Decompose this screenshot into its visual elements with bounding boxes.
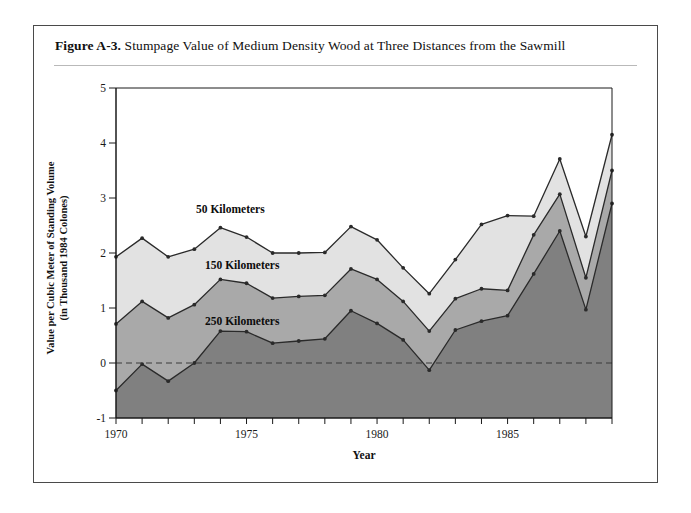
series-label-50km: 50 Kilometers	[196, 203, 265, 215]
y-tick-label-0: 0	[84, 357, 106, 369]
y-tick-label-neg1: -1	[84, 412, 106, 424]
y-axis-title: Value per Cubic Meter of Standing Volume…	[44, 143, 70, 373]
figure-title: Stumpage Value of Medium Density Wood at…	[125, 38, 566, 53]
y-tick-label-1: 1	[84, 302, 106, 314]
y-tick-label-3: 3	[84, 192, 106, 204]
y-tick-label-4: 4	[84, 137, 106, 149]
x-tick-label-1985: 1985	[496, 428, 519, 440]
caption-divider	[54, 65, 637, 66]
figure-caption: Figure A-3. Stumpage Value of Medium Den…	[55, 38, 565, 54]
x-tick-label-1975: 1975	[235, 428, 258, 440]
x-tick-label-1970: 1970	[105, 428, 128, 440]
x-tick-label-1980: 1980	[366, 428, 389, 440]
y-axis-title-line1: Value per Cubic Meter of Standing Volume	[44, 143, 57, 373]
series-label-150km: 150 Kilometers	[205, 259, 279, 271]
x-axis-title: Year	[353, 449, 376, 461]
figure-number: Figure A-3.	[55, 38, 121, 53]
series-label-250km: 250 Kilometers	[205, 315, 279, 327]
y-tick-label-5: 5	[84, 82, 106, 94]
y-tick-label-2: 2	[84, 247, 106, 259]
figure-frame: Figure A-3. Stumpage Value of Medium Den…	[33, 25, 658, 483]
y-axis-title-line2: (in Thousand 1984 Colones)	[57, 143, 70, 373]
